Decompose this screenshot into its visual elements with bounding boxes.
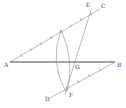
arc-left	[56, 30, 66, 92]
ticks-ac	[20, 12, 92, 57]
ray-ac	[10, 9, 100, 62]
geometry-diagram: A B C E G F D	[0, 0, 126, 108]
ray-db	[50, 62, 115, 98]
label-e: E	[86, 1, 90, 8]
label-b: B	[117, 61, 122, 68]
label-f: F	[69, 91, 73, 98]
label-c: C	[101, 2, 106, 9]
label-d: D	[45, 95, 50, 102]
label-g: G	[75, 63, 80, 70]
label-a: A	[3, 61, 9, 68]
ticks-db	[66, 68, 101, 89]
